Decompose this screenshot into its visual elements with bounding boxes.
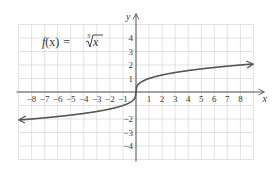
x-tick-label: 1 [147, 94, 152, 104]
x-tick-label: 8 [238, 94, 243, 104]
equals-sign: = [63, 35, 70, 49]
svg-text:x: x [92, 35, 99, 49]
x-axis-label: x [261, 93, 267, 104]
x-tick-label: −5 [66, 94, 76, 104]
y-tick-label: 3 [129, 47, 134, 57]
x-tick-label: −2 [105, 94, 115, 104]
y-axis-label: y [125, 11, 131, 22]
x-tick-label: −7 [40, 94, 50, 104]
radical-index: 3 [87, 33, 90, 39]
x-tick-label: −3 [92, 94, 102, 104]
x-tick-label: 5 [199, 94, 204, 104]
function-arg: (x) [45, 35, 59, 49]
y-tick-label: −2 [123, 114, 133, 124]
radicand: x [92, 35, 99, 49]
cube-root-graph: −8−7−6−5−4−3−2−1123456784321−2−3−4 x y f… [0, 0, 279, 171]
x-tick-label: 3 [173, 94, 178, 104]
y-tick-label: 2 [129, 60, 134, 70]
x-tick-label: −8 [27, 94, 37, 104]
y-tick-label: 1 [129, 74, 134, 84]
x-tick-label: 6 [212, 94, 217, 104]
function-label: f(x)= 3 x [42, 33, 103, 49]
x-tick-label: −4 [79, 94, 89, 104]
y-tick-label: 4 [129, 33, 134, 43]
x-tick-label: −6 [53, 94, 63, 104]
x-tick-label: 4 [186, 94, 191, 104]
x-tick-label: −1 [118, 94, 128, 104]
svg-text:f(x)=: f(x)= [42, 35, 70, 49]
x-tick-label: 7 [225, 94, 230, 104]
y-tick-label: −4 [123, 141, 133, 151]
y-tick-label: −3 [123, 128, 133, 138]
x-tick-label: 2 [160, 94, 165, 104]
